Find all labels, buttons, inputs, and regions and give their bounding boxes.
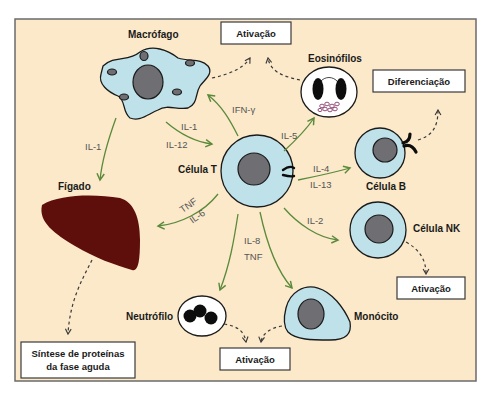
acute-phase-line1: Síntese de proteínas [32,348,125,359]
eosinophil-cell [301,67,357,117]
differentiation-label: Diferenciação [388,76,451,87]
cytokine-ifn-gamma: IFN-γ [232,104,255,115]
cytokine-il12-tcell: IL-12 [166,139,188,150]
b-cell-label: Célula B [366,181,406,192]
t-cell [221,135,294,207]
neutrophil-label: Neutrófilo [126,311,173,322]
nk-cell-label: Célula NK [413,223,461,234]
activation-top-label: Ativação [236,28,276,39]
cytokine-il5: IL-5 [281,130,297,141]
macrophage-label: Macrófago [128,29,179,40]
liver-label: Fígado [58,181,91,192]
cytokine-network-diagram: Macrófago Ativação Eosinófilos Diferenci… [0,0,491,395]
cytokine-il8: IL-8 [244,235,260,246]
t-cell-label: Célula T [178,164,217,175]
activation-nk-label: Ativação [411,283,451,294]
monocyte-label: Monócito [354,311,398,322]
cytokine-il13: IL-13 [310,179,332,190]
cytokine-il1-liver: IL-1 [85,141,101,152]
cytokine-il4: IL-4 [313,163,329,174]
cytokine-il1-tcell: IL-1 [181,121,197,132]
cytokine-tnf-neutrophil: TNF [244,251,263,262]
nk-cell [350,202,406,258]
eosinophils-label: Eosinófilos [308,53,362,64]
activation-bottom-label: Ativação [235,354,275,365]
cytokine-il2: IL-2 [307,215,323,226]
neutrophil-cell [178,296,226,336]
acute-phase-line2: da fase aguda [46,361,110,372]
